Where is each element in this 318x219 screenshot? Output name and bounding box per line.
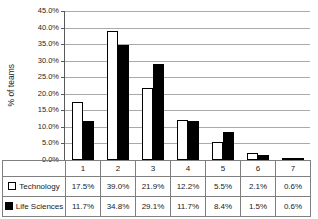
legend-label-life-sciences: Life Sciences bbox=[16, 202, 64, 211]
category-cell: 3 bbox=[136, 161, 171, 177]
value-cell-life-sciences: 29.1% bbox=[136, 197, 171, 217]
value-cell-technology: 5.5% bbox=[206, 177, 241, 197]
legend-swatch-life-sciences bbox=[5, 202, 13, 210]
category-cell: 4 bbox=[171, 161, 206, 177]
legend-label-technology: Technology bbox=[19, 182, 59, 191]
y-tick-label: 35.0% bbox=[38, 39, 59, 48]
bar-technology bbox=[247, 153, 258, 160]
y-tick-label: 5.0% bbox=[42, 138, 59, 147]
value-cell-life-sciences: 11.7% bbox=[171, 197, 206, 217]
bar-group bbox=[170, 11, 205, 160]
series-row-life-sciences: Life Sciences11.7%34.8%29.1%11.7%8.4%1.5… bbox=[3, 197, 311, 217]
bar-group bbox=[100, 11, 135, 160]
plot-area bbox=[64, 11, 310, 160]
value-cell-life-sciences: 11.7% bbox=[66, 197, 101, 217]
y-tick-label: 10.0% bbox=[38, 122, 59, 131]
value-cell-technology: 2.1% bbox=[241, 177, 276, 197]
bar-group bbox=[240, 11, 275, 160]
bar-group bbox=[275, 11, 310, 160]
bar-life-sciences bbox=[153, 64, 164, 160]
value-cell-technology: 17.5% bbox=[66, 177, 101, 197]
bar-life-sciences bbox=[118, 45, 129, 160]
category-row: 1234567 bbox=[3, 161, 311, 177]
y-tick-label: 40.0% bbox=[38, 23, 59, 32]
category-cell: 6 bbox=[241, 161, 276, 177]
value-cell-life-sciences: 8.4% bbox=[206, 197, 241, 217]
series-row-technology: Technology17.5%39.0%21.9%12.2%5.5%2.1%0.… bbox=[3, 177, 311, 197]
legend-cell-life-sciences: Life Sciences bbox=[3, 197, 66, 217]
y-tick-label: 15.0% bbox=[38, 105, 59, 114]
category-cell: 1 bbox=[66, 161, 101, 177]
y-tick-label: 45.0% bbox=[38, 6, 59, 15]
bar-group bbox=[135, 11, 170, 160]
value-cell-life-sciences: 1.5% bbox=[241, 197, 276, 217]
value-cell-technology: 0.6% bbox=[276, 177, 311, 197]
bar-life-sciences bbox=[83, 121, 94, 160]
bar-technology bbox=[177, 120, 188, 160]
value-cell-technology: 39.0% bbox=[101, 177, 136, 197]
value-cell-life-sciences: 34.8% bbox=[101, 197, 136, 217]
table-corner-cell bbox=[3, 161, 66, 177]
value-cell-life-sciences: 0.6% bbox=[276, 197, 311, 217]
data-table: 1234567Technology17.5%39.0%21.9%12.2%5.5… bbox=[2, 160, 311, 217]
bar-technology bbox=[107, 31, 118, 160]
y-tick-label: 25.0% bbox=[38, 72, 59, 81]
legend-cell-technology: Technology bbox=[3, 177, 66, 197]
y-tick-label: 30.0% bbox=[38, 56, 59, 65]
bar-chart-figure: % of teams 0.0%5.0%10.0%15.0%20.0%25.0%3… bbox=[0, 0, 318, 219]
bar-technology bbox=[212, 142, 223, 160]
category-cell: 2 bbox=[101, 161, 136, 177]
category-cell: 5 bbox=[206, 161, 241, 177]
legend-swatch-technology bbox=[8, 182, 16, 190]
bar-life-sciences bbox=[223, 132, 234, 160]
y-tick-label: 20.0% bbox=[38, 89, 59, 98]
value-cell-technology: 12.2% bbox=[171, 177, 206, 197]
bar-group bbox=[65, 11, 100, 160]
value-cell-technology: 21.9% bbox=[136, 177, 171, 197]
bar-technology bbox=[142, 88, 153, 161]
bar-technology bbox=[72, 102, 83, 160]
bar-life-sciences bbox=[188, 121, 199, 160]
category-cell: 7 bbox=[276, 161, 311, 177]
y-axis-tick-labels: 0.0%5.0%10.0%15.0%20.0%25.0%30.0%35.0%40… bbox=[0, 11, 59, 160]
bar-group bbox=[205, 11, 240, 160]
